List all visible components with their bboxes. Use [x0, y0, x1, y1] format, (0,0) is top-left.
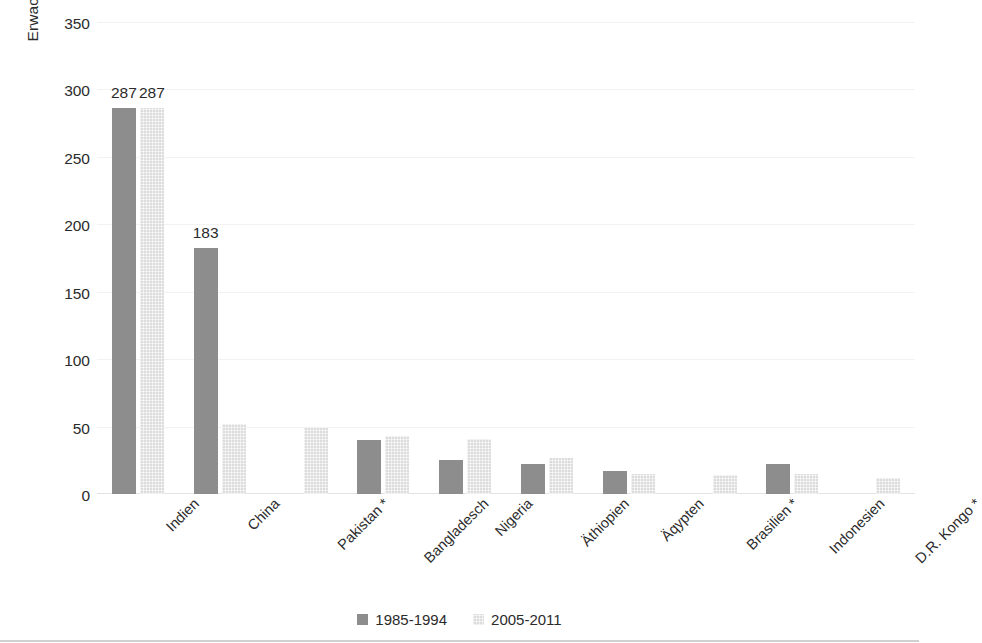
legend-item-2005-2011[interactable]: 2005-2011: [473, 612, 562, 627]
bar-group: [685, 22, 737, 494]
bar[interactable]: [549, 458, 573, 494]
bar[interactable]: [766, 464, 790, 494]
bar-group: [276, 22, 328, 494]
x-axis-label: Bangladesch: [422, 496, 493, 567]
y-tick-150: 150: [44, 286, 90, 302]
x-axis-label: Indien: [163, 496, 202, 535]
x-axis-label: Brasilien *: [744, 496, 801, 553]
y-tick-100: 100: [44, 353, 90, 369]
bar[interactable]: [385, 436, 409, 494]
y-tick-300: 300: [44, 83, 90, 99]
bar[interactable]: [603, 471, 627, 494]
legend-item-1985-1994[interactable]: 1985-1994: [357, 612, 447, 627]
bar-group: [848, 22, 900, 494]
x-axis-label: Pakistan *: [335, 496, 392, 553]
legend-swatch-icon-series2: [473, 614, 484, 625]
bar-group: [439, 22, 491, 494]
legend-label-series2: 2005-2011: [491, 612, 562, 627]
bar[interactable]: [222, 424, 246, 494]
bar[interactable]: [876, 478, 900, 494]
bar[interactable]: [439, 460, 463, 494]
y-tick-50: 50: [44, 421, 90, 437]
bar-group: [766, 22, 818, 494]
bar[interactable]: [521, 464, 545, 494]
x-axis-label: D.R. Kongo *: [913, 496, 982, 567]
x-axis-label: China: [245, 496, 283, 534]
bar[interactable]: [631, 474, 655, 494]
legend-swatch-icon-series1: [357, 614, 368, 625]
bar-group: [521, 22, 573, 494]
bar-group: [357, 22, 409, 494]
bar[interactable]: [112, 108, 136, 494]
x-axis-label: Äthiopien: [579, 496, 633, 550]
x-axis-label: Äqypten: [658, 496, 707, 545]
bottom-divider: [0, 640, 919, 642]
bar[interactable]: [467, 439, 491, 494]
bar-group: 183: [194, 22, 246, 494]
y-axis-tick-labels: 350 300 250 200 150 100 50 0: [38, 0, 90, 643]
y-tick-350: 350: [44, 16, 90, 32]
bar[interactable]: [713, 475, 737, 494]
legend-label-series1: 1985-1994: [375, 612, 447, 627]
bar-group: [603, 22, 655, 494]
bar[interactable]: [140, 108, 164, 494]
y-tick-0: 0: [44, 488, 90, 504]
x-axis-category-labels: IndienChinaPakistan *BangladeschNigeriaÄ…: [97, 496, 915, 596]
bar-group: 287287: [112, 22, 164, 494]
chart-legend: 1985-1994 2005-2011: [0, 612, 919, 627]
x-axis-label: Indonesien: [827, 496, 888, 557]
bar[interactable]: [194, 248, 218, 494]
bar[interactable]: [794, 474, 818, 494]
y-tick-250: 250: [44, 151, 90, 167]
plot-area: 287287183: [97, 22, 915, 494]
bar-value-label: 287: [132, 85, 172, 101]
x-axis-label: Nigeria: [493, 496, 537, 540]
bar[interactable]: [357, 440, 381, 494]
bar[interactable]: [304, 428, 328, 494]
y-tick-200: 200: [44, 218, 90, 234]
bar-value-label: 183: [186, 225, 226, 241]
y-axis-title-container: Erwachsene Analphabeten (in Millionen: [8, 118, 34, 478]
